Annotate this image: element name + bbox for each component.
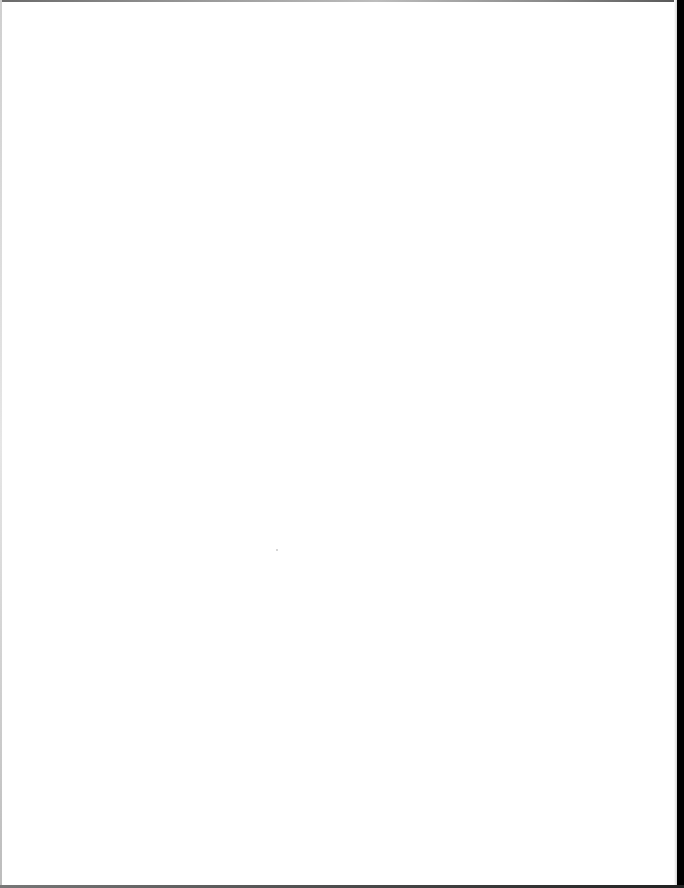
- page-body: [40, 40, 644, 848]
- scan-edge-right: [677, 0, 684, 888]
- scan-edge-top: [0, 0, 684, 2]
- scanned-page: [0, 0, 684, 888]
- scan-edge-left: [0, 0, 2, 888]
